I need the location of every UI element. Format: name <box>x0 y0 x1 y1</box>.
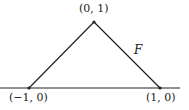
vertex-left-point <box>27 86 30 89</box>
vertex-top-label: (0, 1) <box>79 2 109 15</box>
left-edge <box>29 22 94 88</box>
right-edge-F <box>94 22 160 88</box>
vertex-right-point <box>158 86 161 89</box>
vertex-right-label: (1, 0) <box>146 91 176 104</box>
edge-label-F: F <box>134 43 142 57</box>
vertex-top-point <box>92 20 95 23</box>
vertex-left-label: (−1, 0) <box>9 91 48 104</box>
